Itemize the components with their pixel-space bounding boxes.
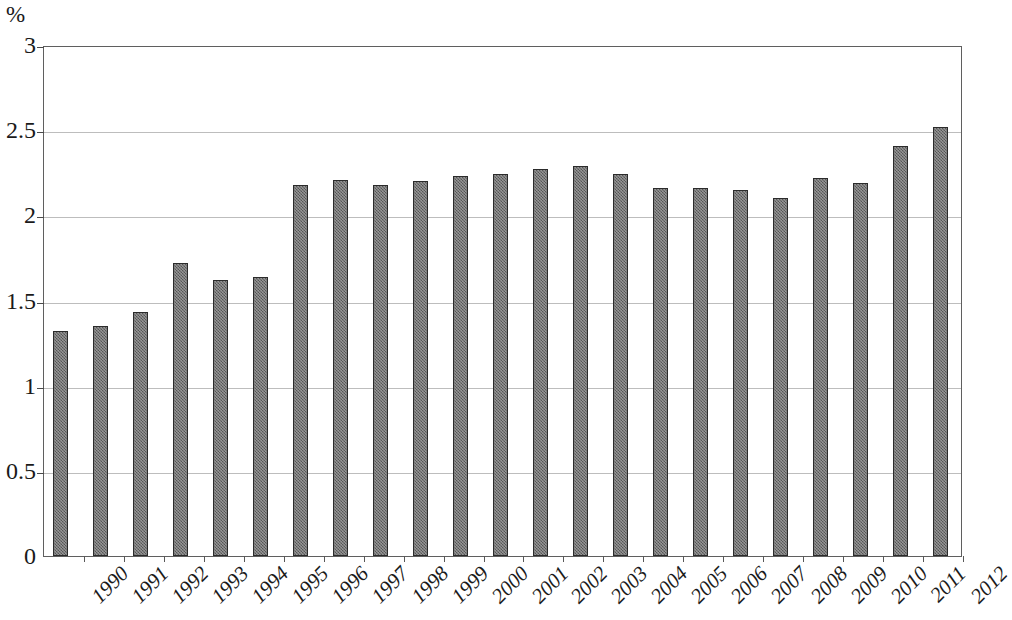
x-tick-mark bbox=[963, 556, 964, 562]
y-tick-label: 1.5 bbox=[0, 289, 36, 313]
x-tick-label: 1993 bbox=[207, 562, 252, 607]
x-axis-tick-labels: 1990199119921993199419951996199719981999… bbox=[43, 562, 962, 620]
y-tick-label: 2.5 bbox=[0, 118, 36, 142]
bar bbox=[653, 188, 668, 556]
x-tick-label: 2002 bbox=[567, 562, 612, 607]
bar bbox=[173, 263, 188, 556]
bar bbox=[373, 185, 388, 556]
bar bbox=[493, 174, 508, 556]
bar bbox=[733, 190, 748, 556]
bar bbox=[933, 127, 948, 556]
bar bbox=[413, 181, 428, 556]
y-tick-mark bbox=[37, 473, 44, 474]
bar bbox=[693, 188, 708, 556]
bar bbox=[253, 277, 268, 556]
x-tick-label: 1998 bbox=[407, 562, 452, 607]
x-tick-label: 2000 bbox=[487, 562, 532, 607]
bar bbox=[133, 312, 148, 556]
y-axis-tick-labels: 00.511.522.53 bbox=[0, 0, 36, 620]
x-tick-label: 2003 bbox=[607, 562, 652, 607]
y-tick-label: 2 bbox=[0, 203, 36, 227]
x-tick-label: 1997 bbox=[367, 562, 412, 607]
x-tick-label: 2005 bbox=[687, 562, 732, 607]
x-tick-label: 1996 bbox=[327, 562, 372, 607]
x-tick-label: 1994 bbox=[247, 562, 292, 607]
y-tick-mark bbox=[37, 47, 44, 48]
bar bbox=[293, 185, 308, 556]
bar bbox=[613, 174, 628, 556]
x-tick-label: 2010 bbox=[886, 562, 931, 607]
bar bbox=[333, 180, 348, 556]
x-tick-label: 1995 bbox=[287, 562, 332, 607]
bar bbox=[853, 183, 868, 556]
bar bbox=[893, 146, 908, 557]
bar bbox=[213, 280, 228, 556]
y-tick-label: 1 bbox=[0, 374, 36, 398]
y-tick-mark bbox=[37, 132, 44, 133]
y-tick-mark bbox=[37, 303, 44, 304]
y-tick-label: 0 bbox=[0, 544, 36, 568]
x-tick-label: 1990 bbox=[87, 562, 132, 607]
bar bbox=[573, 166, 588, 556]
x-tick-label: 1991 bbox=[127, 562, 172, 607]
y-tick-label: 3 bbox=[0, 33, 36, 57]
bar bbox=[93, 326, 108, 556]
x-tick-label: 2001 bbox=[527, 562, 572, 607]
plot-area bbox=[43, 46, 962, 557]
y-tick-mark bbox=[37, 217, 44, 218]
x-tick-label: 1992 bbox=[167, 562, 212, 607]
bar bbox=[533, 169, 548, 556]
y-tick-label: 0.5 bbox=[0, 459, 36, 483]
bar bbox=[813, 178, 828, 556]
x-tick-label: 2012 bbox=[966, 562, 1011, 607]
x-tick-label: 2009 bbox=[846, 562, 891, 607]
x-tick-label: 2006 bbox=[727, 562, 772, 607]
x-tick-label: 2007 bbox=[767, 562, 812, 607]
x-tick-label: 2004 bbox=[647, 562, 692, 607]
x-tick-label: 2008 bbox=[806, 562, 851, 607]
bar bbox=[773, 198, 788, 556]
bars-container bbox=[44, 47, 961, 556]
bar bbox=[453, 176, 468, 556]
x-tick-label: 1999 bbox=[447, 562, 492, 607]
bar bbox=[53, 331, 68, 556]
y-tick-mark bbox=[37, 388, 44, 389]
x-tick-label: 2011 bbox=[926, 562, 970, 606]
